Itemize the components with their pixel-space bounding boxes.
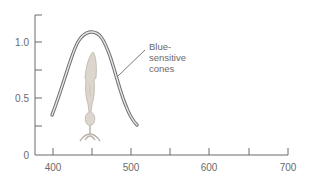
x-tick-label: 500 <box>123 162 140 173</box>
annotation-line-3: cones <box>149 63 175 74</box>
x-tick-label: 400 <box>45 162 62 173</box>
y-tick-label: 1.0 <box>15 37 29 48</box>
x-tick-label: 600 <box>201 162 218 173</box>
curve-annotation: Blue- sensitive cones <box>117 41 186 77</box>
x-tick-label: 700 <box>280 162 297 173</box>
y-tick-label: 0 <box>23 150 29 161</box>
x-axis: 400 500 600 700 <box>35 148 297 173</box>
y-axis: 1.0 0.5 0 <box>15 15 42 161</box>
annotation-line-2: sensitive <box>149 52 186 63</box>
annotation-line-1: Blue- <box>149 41 171 52</box>
y-tick-label: 0.5 <box>15 93 29 104</box>
absorption-chart: 1.0 0.5 0 400 500 600 700 Blue- sensitiv… <box>0 0 309 184</box>
cone-cell-illustration <box>80 52 100 141</box>
